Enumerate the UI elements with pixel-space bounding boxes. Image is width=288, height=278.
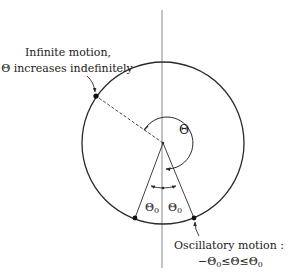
oscillation-right-point bbox=[192, 216, 197, 221]
infinite-leader bbox=[87, 76, 95, 92]
theta-arc-start-tick bbox=[144, 126, 148, 130]
infinite-motion-label-line1: Infinite motion, bbox=[25, 46, 111, 59]
theta0-left-subscript: 0 bbox=[154, 206, 159, 215]
oscillatory-leader bbox=[195, 222, 199, 236]
pivot-point bbox=[162, 142, 164, 144]
theta0-right-label: Θ0 bbox=[168, 201, 182, 215]
infinite-motion-label-line2: Θ increases indefinitely bbox=[1, 62, 133, 75]
theta0-left-symbol: Θ bbox=[145, 201, 154, 214]
theta0-right-symbol: Θ bbox=[168, 201, 177, 214]
theta0-left-label: Θ0 bbox=[145, 201, 159, 215]
ineq-neg-theta: −Θ bbox=[198, 255, 216, 268]
oscillation-left-point bbox=[133, 216, 138, 221]
theta0-right-subscript: 0 bbox=[177, 206, 182, 215]
infinite-motion-radius bbox=[96, 96, 163, 143]
theta0-arc-center-dot bbox=[162, 187, 165, 190]
ineq-sub-2: 0 bbox=[258, 260, 263, 269]
infinite-motion-point bbox=[93, 93, 98, 98]
oscillatory-motion-label-line1: Oscillatory motion : bbox=[174, 239, 284, 252]
pendulum-phase-diagram: Θ Θ0 Θ0 Infinite motion, Θ increases ind… bbox=[0, 0, 288, 278]
theta-label: Θ bbox=[179, 122, 189, 137]
ineq-middle: ≤Θ≤Θ bbox=[221, 255, 257, 268]
oscillatory-inequality: −Θ0≤Θ≤Θ0 bbox=[198, 255, 263, 269]
